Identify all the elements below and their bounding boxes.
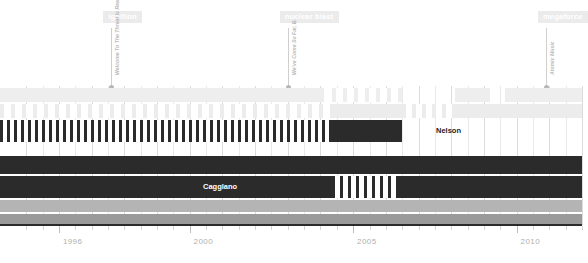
axis-tick <box>222 226 223 230</box>
x-axis-line <box>0 224 582 226</box>
event-marker-line <box>111 28 112 88</box>
bar-segment <box>0 200 582 212</box>
axis-tick <box>402 226 403 230</box>
event-caption: We've Come So Far, B. <box>292 19 297 75</box>
gridline <box>582 86 583 225</box>
axis-tick <box>517 226 518 233</box>
bar-segment <box>0 120 332 142</box>
row-3-dark[interactable]: Nelson <box>0 120 582 142</box>
axis-tick <box>353 226 354 233</box>
axis-tick <box>108 226 109 230</box>
axis-tick <box>582 226 583 230</box>
axis-tick <box>141 226 142 230</box>
axis-tick <box>59 226 60 233</box>
row-4-dark[interactable] <box>0 156 582 174</box>
row-6-gray[interactable] <box>0 200 582 212</box>
axis-tick <box>92 226 93 230</box>
bar-segment <box>0 214 582 224</box>
axis-tick <box>124 226 125 230</box>
axis-tick-label: 1996 <box>63 238 82 246</box>
bar-segment <box>332 88 402 102</box>
axis-tick <box>451 226 452 230</box>
axis-tick-label: 2010 <box>521 238 540 246</box>
axis-tick <box>484 226 485 230</box>
event-caption: Welcome To The Threat Is Real <box>115 0 120 75</box>
event-badge[interactable]: ignition <box>103 11 142 23</box>
axis-tick <box>304 226 305 230</box>
axis-tick <box>320 226 321 230</box>
bar-segment <box>455 104 582 118</box>
event-caption: Atomic Music <box>550 41 555 75</box>
bar-segment <box>398 176 582 198</box>
bar-segment <box>332 176 398 198</box>
axis-tick <box>549 226 550 230</box>
axis-tick <box>43 226 44 230</box>
row-label: Nelson <box>436 127 461 135</box>
row-5-dark[interactable]: Cagglano <box>0 176 582 198</box>
axis-tick <box>370 226 371 230</box>
bar-segment <box>0 176 332 198</box>
axis-tick <box>468 226 469 230</box>
axis-tick <box>173 226 174 230</box>
event-badge[interactable]: megaforce <box>538 11 588 23</box>
axis-tick <box>157 226 158 230</box>
row-label: Cagglano <box>203 183 237 191</box>
axis-tick <box>386 226 387 230</box>
axis-tick <box>206 226 207 230</box>
axis-tick <box>271 226 272 230</box>
axis-tick <box>419 226 420 230</box>
axis-tick <box>239 226 240 230</box>
axis-tick <box>190 226 191 233</box>
event-marker-line <box>288 28 289 88</box>
axis-tick <box>337 226 338 230</box>
row-2-light[interactable] <box>0 104 582 118</box>
bar-segment <box>332 104 402 118</box>
bar-segment <box>455 88 490 102</box>
axis-tick <box>255 226 256 230</box>
axis-tick-label: 2005 <box>357 238 376 246</box>
axis-tick-label: 2000 <box>194 238 213 246</box>
axis-tick <box>26 226 27 230</box>
bar-segment <box>0 156 582 174</box>
row-1-light[interactable] <box>0 88 582 102</box>
axis-tick <box>435 226 436 230</box>
axis-tick <box>500 226 501 230</box>
bar-segment <box>0 88 324 102</box>
event-badge[interactable]: nuclear blast <box>280 11 339 23</box>
axis-tick <box>75 226 76 230</box>
axis-tick <box>566 226 567 230</box>
axis-tick <box>533 226 534 230</box>
axis-tick <box>288 226 289 230</box>
bar-segment <box>505 88 582 102</box>
event-marker-line <box>546 28 547 88</box>
row-7-gray[interactable] <box>0 214 582 224</box>
bar-segment <box>332 120 402 142</box>
bar-segment <box>0 104 332 118</box>
bar-segment <box>402 104 455 118</box>
